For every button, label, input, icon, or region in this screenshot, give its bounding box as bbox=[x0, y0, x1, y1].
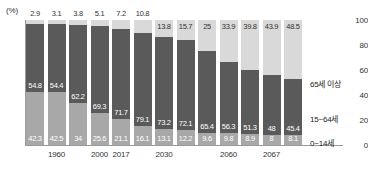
bar-segment-value: 48.5 bbox=[284, 23, 302, 31]
legend-item-0: 65세 이상 bbox=[310, 78, 341, 89]
x-tick-label-2030: 2030 bbox=[144, 150, 184, 159]
bar-segment-value: 9.6 bbox=[198, 135, 216, 143]
bar-segment-15-64: 45.4 bbox=[284, 79, 302, 135]
bar-segment-0-14: 13.1 bbox=[155, 129, 173, 145]
bar-segment-value: 8.9 bbox=[241, 135, 259, 143]
bar-segment-value: 72.1 bbox=[177, 120, 195, 128]
bar-segment-value: 13.8 bbox=[155, 23, 173, 31]
y-tick-label-100: 100 bbox=[346, 16, 368, 25]
x-tick-label-2017: 2017 bbox=[101, 150, 141, 159]
y-tick-label-80: 80 bbox=[346, 41, 368, 50]
bar-segment-value: 13.1 bbox=[155, 135, 173, 143]
bar-segment-value: 42.5 bbox=[48, 135, 66, 143]
bar-segment-15-64: 79.1 bbox=[134, 33, 152, 126]
bar-column[interactable]: 2565.49.6 bbox=[198, 20, 216, 145]
bar-column[interactable]: 5.169.325.6 bbox=[91, 20, 109, 145]
bar-segment-0-14: 9.8 bbox=[220, 133, 238, 145]
legend-item-1: 15~64세 bbox=[310, 113, 338, 124]
bar-segment-value: 54.4 bbox=[48, 82, 66, 90]
bar-segment-15-64: 51.3 bbox=[241, 70, 259, 134]
bar-segment-0-14: 42.3 bbox=[26, 92, 44, 145]
bar-segment-value: 65.4 bbox=[198, 123, 216, 131]
bar-column[interactable]: 43.9488 bbox=[263, 20, 281, 145]
bar-segment-15-64: 62.2 bbox=[69, 25, 87, 103]
bar-segment-value: 45.4 bbox=[284, 125, 302, 133]
y-tick-label-40: 40 bbox=[346, 91, 368, 100]
bar-column[interactable]: 15.772.112.2 bbox=[177, 20, 195, 145]
bar-segment-65-plus: 15.7 bbox=[177, 20, 195, 40]
bar-column[interactable]: 33.956.39.8 bbox=[220, 20, 238, 145]
bar-segment-0-14: 25.6 bbox=[91, 113, 109, 145]
bar-segment-65-plus: 39.8 bbox=[241, 20, 259, 70]
bar-segment-value: 25.6 bbox=[91, 135, 109, 143]
bar-segment-65-plus: 33.9 bbox=[220, 20, 238, 62]
bar-segment-value: 71.7 bbox=[112, 109, 130, 117]
bar-segment-0-14: 8 bbox=[263, 135, 281, 145]
bar-segment-value: 39.8 bbox=[241, 23, 259, 31]
bar-segment-0-14: 9.6 bbox=[198, 133, 216, 145]
bar-segment-65-plus: 10.8 bbox=[134, 20, 152, 33]
bar-segment-0-14: 8.9 bbox=[241, 134, 259, 145]
bar-segment-value: 56.3 bbox=[220, 123, 238, 131]
y-tick-label-0: 0 bbox=[346, 141, 368, 150]
bar-segment-0-14: 34 bbox=[69, 103, 87, 146]
bar-column[interactable]: 2.954.842.3 bbox=[26, 20, 44, 145]
bar-segment-value: 8 bbox=[263, 135, 281, 143]
bar-segment-value: 10.8 bbox=[130, 10, 156, 18]
bar-segment-value: 33.9 bbox=[220, 23, 238, 31]
bar-segment-value: 8.1 bbox=[284, 135, 302, 143]
bar-segment-15-64: 54.4 bbox=[48, 24, 66, 92]
bar-segment-value: 16.1 bbox=[134, 135, 152, 143]
bar-segment-value: 25 bbox=[198, 23, 216, 31]
bar-column[interactable]: 48.545.48.1 bbox=[284, 20, 302, 145]
bar-segment-15-64: 69.3 bbox=[91, 26, 109, 113]
bar-segment-value: 43.9 bbox=[263, 23, 281, 31]
x-tick-label-2060: 2060 bbox=[209, 150, 249, 159]
bar-segment-value: 54.8 bbox=[26, 82, 44, 90]
bar-segment-value: 48 bbox=[263, 125, 281, 133]
bar-column[interactable]: 3.862.234 bbox=[69, 20, 87, 145]
bar-column[interactable]: 13.873.213.1 bbox=[155, 20, 173, 145]
bar-segment-0-14: 42.5 bbox=[48, 92, 66, 145]
bar-segment-0-14: 8.1 bbox=[284, 135, 302, 145]
population-age-structure-chart: (%) 020406080100 2.954.842.33.154.442.53… bbox=[0, 0, 368, 175]
bar-column[interactable]: 10.879.116.1 bbox=[134, 20, 152, 145]
bar-segment-0-14: 12.2 bbox=[177, 130, 195, 145]
bar-column[interactable]: 7.271.721.1 bbox=[112, 20, 130, 145]
legend-item-2: 0~14세 bbox=[310, 137, 334, 148]
bar-segment-15-64: 71.7 bbox=[112, 29, 130, 119]
bar-segment-65-plus: 7.2 bbox=[112, 20, 130, 29]
bar-segment-value: 42.3 bbox=[26, 135, 44, 143]
y-axis-unit-label: (%) bbox=[6, 6, 18, 15]
bar-segment-value: 79.1 bbox=[134, 116, 152, 124]
y-tick-label-20: 20 bbox=[346, 116, 368, 125]
bar-segment-65-plus: 43.9 bbox=[263, 20, 281, 75]
bar-segment-15-64: 56.3 bbox=[220, 62, 238, 132]
bar-segment-15-64: 72.1 bbox=[177, 40, 195, 130]
bar-segment-65-plus: 13.8 bbox=[155, 20, 173, 37]
bar-segment-value: 9.8 bbox=[220, 135, 238, 143]
bar-segment-0-14: 21.1 bbox=[112, 119, 130, 145]
bar-segment-15-64: 65.4 bbox=[198, 51, 216, 133]
bar-segment-value: 15.7 bbox=[177, 23, 195, 31]
y-tick-mark bbox=[25, 145, 28, 146]
bar-segment-value: 69.3 bbox=[91, 103, 109, 111]
bar-segment-value: 34 bbox=[69, 135, 87, 143]
bar-column[interactable]: 39.851.38.9 bbox=[241, 20, 259, 145]
bar-segment-15-64: 48 bbox=[263, 75, 281, 135]
plot-area: 2.954.842.33.154.442.53.862.2345.169.325… bbox=[26, 20, 302, 145]
bar-segment-value: 73.2 bbox=[155, 119, 173, 127]
bar-segment-15-64: 54.8 bbox=[26, 24, 44, 93]
bar-segment-value: 62.2 bbox=[69, 93, 87, 101]
bar-column[interactable]: 3.154.442.5 bbox=[48, 20, 66, 145]
bar-segment-15-64: 73.2 bbox=[155, 37, 173, 128]
x-axis-line bbox=[25, 145, 343, 146]
bar-segment-value: 21.1 bbox=[112, 135, 130, 143]
bar-segment-0-14: 16.1 bbox=[134, 126, 152, 145]
x-tick-label-1960: 1960 bbox=[37, 150, 77, 159]
y-tick-label-60: 60 bbox=[346, 66, 368, 75]
bar-segment-value: 12.2 bbox=[177, 135, 195, 143]
bar-segment-65-plus: 48.5 bbox=[284, 20, 302, 79]
bar-segment-65-plus: 25 bbox=[198, 20, 216, 51]
x-tick-label-2067: 2067 bbox=[252, 150, 292, 159]
